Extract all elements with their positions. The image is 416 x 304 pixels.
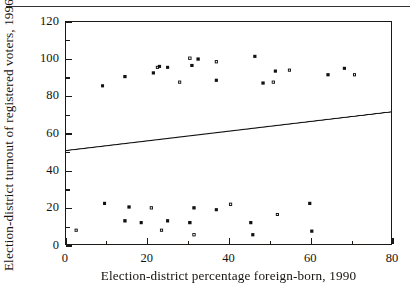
y-major-tick <box>66 171 72 172</box>
scatter-figure: Election-district turnout of registered … <box>0 0 416 304</box>
y-minor-tick <box>66 152 70 153</box>
y-tick-label: 100 <box>40 52 59 65</box>
x-minor-tick <box>352 241 353 245</box>
x-minor-tick <box>270 241 271 245</box>
y-minor-tick <box>66 77 70 78</box>
y-major-tick <box>66 21 72 22</box>
y-major-tick <box>66 245 72 246</box>
x-minor-tick <box>188 241 189 245</box>
x-tick-label: 60 <box>290 252 330 265</box>
y-minor-tick <box>66 227 70 228</box>
y-tick-label: 120 <box>40 15 59 28</box>
scatter-plot-canvas <box>66 22 391 244</box>
y-major-tick <box>66 208 72 209</box>
x-minor-tick <box>106 241 107 245</box>
y-major-tick <box>66 96 72 97</box>
y-axis-title-wrap: Election-district turnout of registered … <box>0 0 20 270</box>
x-major-tick <box>311 238 312 244</box>
x-tick-label: 20 <box>127 252 167 265</box>
x-axis-title: Election-district percentage foreign-bor… <box>65 268 392 284</box>
y-major-tick <box>66 59 72 60</box>
y-axis-title: Election-district turnout of registered … <box>1 0 17 271</box>
x-major-tick <box>392 238 393 244</box>
y-minor-tick <box>66 115 70 116</box>
x-tick-label: 80 <box>372 252 412 265</box>
y-major-tick <box>66 133 72 134</box>
y-tick-label: 40 <box>46 164 59 177</box>
y-tick-label: 80 <box>46 89 59 102</box>
y-minor-tick <box>66 40 70 41</box>
y-tick-label: 20 <box>46 201 59 214</box>
x-tick-label: 0 <box>45 252 85 265</box>
x-major-tick <box>65 238 66 244</box>
x-major-tick <box>147 238 148 244</box>
plot-frame <box>65 21 392 245</box>
x-major-tick <box>229 238 230 244</box>
x-tick-label: 40 <box>209 252 249 265</box>
page-divider-rule <box>6 6 410 7</box>
y-minor-tick <box>66 189 70 190</box>
y-tick-label: 0 <box>53 239 59 252</box>
y-tick-label: 60 <box>46 127 59 140</box>
